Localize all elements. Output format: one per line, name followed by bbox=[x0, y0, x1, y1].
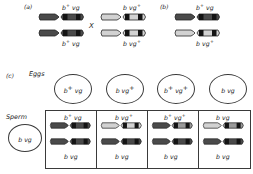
allele-b-superscript: + bbox=[66, 3, 70, 8]
sperm-gamete: b vg bbox=[8, 124, 42, 152]
offspring-4-top-label: b vg bbox=[216, 113, 230, 121]
allele-vg: vg bbox=[227, 87, 235, 94]
offspring-1-top-label: b+ vg bbox=[64, 113, 82, 121]
allele-vg: vg bbox=[175, 87, 183, 94]
chromosome-dark bbox=[174, 12, 222, 21]
chromosome-dark bbox=[100, 137, 144, 146]
allele-vg-superscript: + bbox=[129, 84, 134, 91]
parent-left-top-label: b+ vg bbox=[62, 3, 80, 11]
panel-a-label: (a) bbox=[24, 3, 32, 10]
allele-b: b bbox=[18, 136, 22, 143]
offspring-1-bottom-label: b vg bbox=[64, 152, 78, 160]
allele-b-superscript: + bbox=[66, 39, 70, 44]
chromosome-dark bbox=[49, 121, 93, 130]
allele-vg: vg bbox=[222, 114, 230, 121]
allele-b-superscript: + bbox=[200, 3, 204, 8]
panel-c-label: (c) bbox=[6, 72, 14, 79]
cross-symbol: X bbox=[89, 22, 94, 30]
allele-vg: vg bbox=[121, 114, 129, 121]
grid-divider bbox=[147, 110, 148, 168]
egg-gamete-4-label: b vg bbox=[221, 84, 235, 94]
grid-divider bbox=[96, 110, 97, 168]
allele-vg-superscript: + bbox=[183, 84, 188, 91]
allele-vg: vg bbox=[72, 40, 80, 47]
f1-bottom-label: b vg+ bbox=[196, 39, 214, 47]
allele-vg: vg bbox=[129, 40, 137, 47]
allele-b-superscript: + bbox=[168, 113, 172, 118]
allele-vg: vg bbox=[72, 4, 80, 11]
allele-b: b bbox=[196, 40, 200, 47]
allele-b: b bbox=[216, 153, 220, 160]
parent-right-top-label: b vg+ bbox=[123, 3, 141, 11]
offspring-3-bottom-label: b vg bbox=[164, 152, 178, 160]
allele-vg: vg bbox=[170, 153, 178, 160]
egg-gamete-2: b vg+ bbox=[106, 74, 144, 104]
allele-b-superscript: + bbox=[168, 84, 173, 91]
offspring-4-bottom-label: b vg bbox=[216, 152, 230, 160]
egg-gamete-2-label: b vg+ bbox=[116, 84, 135, 94]
allele-b-superscript: + bbox=[68, 84, 73, 91]
allele-b: b bbox=[115, 153, 119, 160]
allele-vg: vg bbox=[121, 153, 129, 160]
grid-divider bbox=[198, 110, 199, 168]
parent-right-bottom-label: b vg+ bbox=[123, 39, 141, 47]
figure-canvas: (a) b+ vg b+ vg X b vg+ b vg+ bbox=[0, 0, 253, 174]
chromosome-dark bbox=[49, 137, 93, 146]
allele-vg-superscript: + bbox=[137, 39, 141, 44]
parent-left-bottom-label: b+ vg bbox=[62, 39, 80, 47]
allele-vg: vg bbox=[174, 114, 182, 121]
allele-vg: vg bbox=[222, 153, 230, 160]
allele-vg: vg bbox=[75, 87, 83, 94]
chromosome-recombinant bbox=[151, 121, 195, 130]
allele-vg: vg bbox=[129, 4, 137, 11]
allele-vg-superscript: + bbox=[137, 3, 141, 8]
offspring-3-top-label: b+ vg+ bbox=[164, 113, 186, 121]
chromosome-light bbox=[100, 28, 148, 37]
allele-b: b bbox=[123, 40, 127, 47]
f1-top-label: b+ vg bbox=[196, 3, 214, 11]
allele-vg: vg bbox=[202, 40, 210, 47]
allele-vg-superscript: + bbox=[182, 113, 186, 118]
egg-gamete-1: b+ vg bbox=[54, 74, 92, 104]
egg-gamete-3-label: b+ vg+ bbox=[164, 84, 188, 94]
offspring-2-top-label: b vg+ bbox=[115, 113, 133, 121]
allele-b: b bbox=[164, 153, 168, 160]
eggs-label: Eggs bbox=[29, 70, 44, 78]
allele-vg-superscript: + bbox=[129, 113, 133, 118]
panel-b-label: (b) bbox=[160, 3, 169, 10]
allele-vg: vg bbox=[24, 136, 32, 143]
egg-gamete-4: b vg bbox=[209, 74, 247, 104]
chromosome-light bbox=[100, 121, 144, 130]
allele-b: b bbox=[115, 114, 119, 121]
allele-b: b bbox=[123, 4, 127, 11]
chromosome-dark bbox=[151, 137, 195, 146]
allele-vg: vg bbox=[74, 114, 82, 121]
allele-b: b bbox=[216, 114, 220, 121]
allele-vg: vg bbox=[206, 4, 214, 11]
chromosome-light bbox=[202, 121, 246, 130]
allele-b: b bbox=[64, 153, 68, 160]
allele-b: b bbox=[221, 87, 225, 94]
sperm-gamete-label: b vg bbox=[18, 133, 32, 143]
sperm-label: Sperm bbox=[6, 113, 27, 121]
allele-b-superscript: + bbox=[68, 113, 72, 118]
chromosome-light bbox=[100, 12, 148, 21]
egg-gamete-3: b+ vg+ bbox=[157, 74, 195, 104]
chromosome-dark bbox=[38, 12, 86, 21]
chromosome-dark bbox=[202, 137, 246, 146]
offspring-2-bottom-label: b vg bbox=[115, 152, 129, 160]
chromosome-light bbox=[174, 28, 222, 37]
chromosome-dark bbox=[38, 28, 86, 37]
allele-b: b bbox=[116, 87, 120, 94]
egg-gamete-1-label: b+ vg bbox=[64, 84, 83, 94]
allele-vg-superscript: + bbox=[210, 39, 214, 44]
allele-vg: vg bbox=[70, 153, 78, 160]
